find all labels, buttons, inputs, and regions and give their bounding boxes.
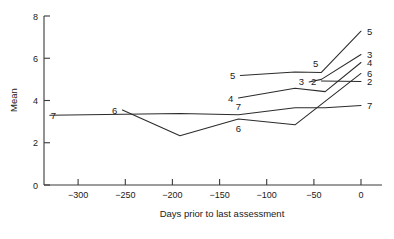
inline-label-4-1: 4 bbox=[228, 93, 233, 104]
x-tick-label-m150: −150 bbox=[209, 190, 229, 200]
inline-label-7-5: 7 bbox=[236, 101, 241, 112]
inline-label-6-7: 6 bbox=[112, 105, 117, 116]
endpoint-label-7: 7 bbox=[367, 100, 372, 111]
y-tick-label-8: 8 bbox=[33, 12, 38, 22]
line-chart: 8 6 4 2 0 −300 −250 −200 −150 −100 −50 0… bbox=[0, 0, 394, 239]
series-line-6 bbox=[122, 73, 361, 135]
inline-label-5-4: 5 bbox=[313, 58, 318, 69]
x-tick-marks bbox=[78, 179, 361, 185]
y-tick-label-2: 2 bbox=[33, 138, 38, 148]
y-tick-marks bbox=[44, 16, 50, 185]
x-tick-label-m200: −200 bbox=[162, 190, 182, 200]
x-axis-title: Days prior to last assessment bbox=[160, 208, 285, 219]
y-tick-label-0: 0 bbox=[33, 181, 38, 191]
inline-label-7-8: 7 bbox=[51, 110, 56, 121]
x-tick-label-m100: −100 bbox=[257, 190, 277, 200]
series-label-group: 543257667534627 bbox=[51, 26, 372, 134]
inline-label-2-3: 2 bbox=[311, 76, 316, 87]
x-tick-label-0: 0 bbox=[358, 190, 363, 200]
x-tick-label-m50: −50 bbox=[306, 190, 321, 200]
y-axis-title: Mean bbox=[8, 88, 19, 112]
inline-label-3-2: 3 bbox=[299, 76, 304, 87]
series-line-5 bbox=[240, 31, 361, 75]
x-tick-label-m300: −300 bbox=[68, 190, 88, 200]
x-tick-label-m250: −250 bbox=[115, 190, 135, 200]
chart-container: 8 6 4 2 0 −300 −250 −200 −150 −100 −50 0… bbox=[0, 0, 394, 239]
endpoint-label-2: 2 bbox=[367, 76, 372, 87]
y-tick-label-6: 6 bbox=[33, 54, 38, 64]
inline-label-5-0: 5 bbox=[230, 70, 235, 81]
series-line-7 bbox=[50, 106, 361, 116]
inline-label-6-6: 6 bbox=[236, 123, 241, 134]
endpoint-label-4: 4 bbox=[367, 57, 372, 68]
y-tick-label-4: 4 bbox=[33, 96, 38, 106]
endpoint-label-5: 5 bbox=[367, 26, 372, 37]
